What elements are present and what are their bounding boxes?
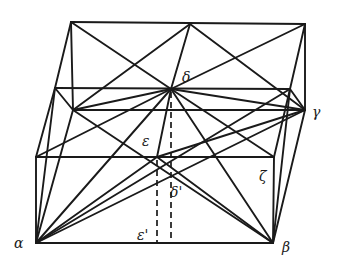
label-alpha: α bbox=[14, 235, 24, 251]
label-beta: β bbox=[281, 239, 290, 255]
label-delta: δ bbox=[182, 69, 190, 85]
diagram-lines bbox=[36, 22, 305, 243]
label-gamma: γ bbox=[312, 104, 321, 120]
label-delta-prime: δ' bbox=[170, 184, 182, 200]
label-epsilon-prime: ε' bbox=[137, 227, 148, 243]
geometric-diagram: α β γ δ δ' ε ε' ζ bbox=[0, 0, 343, 275]
label-epsilon: ε bbox=[142, 133, 150, 149]
label-zeta: ζ bbox=[259, 168, 268, 184]
